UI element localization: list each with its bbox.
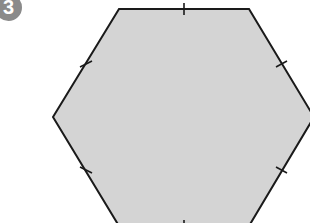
hexagon-figure [0,0,310,223]
hexagon-shape [53,9,310,223]
